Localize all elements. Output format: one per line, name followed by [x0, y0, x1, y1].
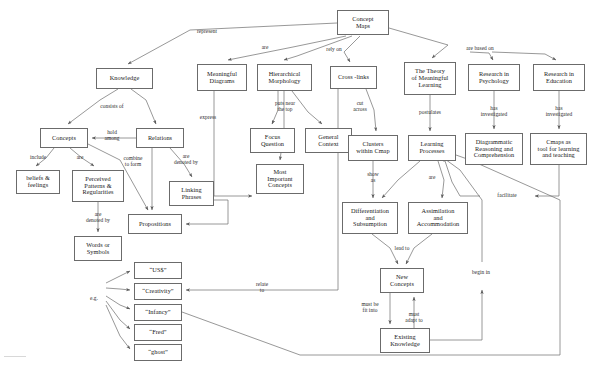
edge-label-puts_near_top: puts near the top	[275, 101, 295, 113]
edge-label-are_based_on: are based on	[466, 46, 493, 52]
edge-label-consists_of: consists of	[100, 104, 123, 110]
edge-label-rely_on: rely on	[326, 47, 341, 53]
edge-label-has_investigated_psy: has investigated	[481, 106, 508, 118]
edge-label-express: express	[200, 115, 216, 121]
edge-label-must_be_fit_into: must be fit into	[361, 302, 378, 314]
edge-label-cut_across: cut across	[353, 101, 367, 113]
edge-label-are_denoted_by_rel: are denoted by	[174, 154, 198, 166]
edge-label-show_as: show as	[367, 172, 379, 184]
edge-label-are_top: are	[262, 45, 269, 51]
edge-label-represent: represent	[197, 29, 217, 35]
edge-label-lead_to: lead to	[395, 246, 410, 252]
edge-label-combine_to_form: combine to form	[124, 156, 143, 168]
edge-label-include: include	[30, 155, 46, 161]
footer-divider	[4, 356, 26, 357]
edge-label-are_denoted_by_pp: are denoted by	[86, 212, 110, 224]
edge-label-hold_among: hold among	[105, 130, 120, 142]
edge-label-must_adapt_to: must adapt to	[405, 312, 423, 324]
edge-label-eg: e.g.	[90, 296, 98, 302]
edge-label-facilitate: facilitate	[497, 193, 516, 199]
edge-label-relate_to: relate to	[256, 282, 268, 294]
edge-label-has_investigated_edu: has investigated	[546, 106, 573, 118]
edge-label-postulates: postulates	[419, 110, 441, 116]
edge-label-are_learning: are	[429, 175, 436, 181]
edge-label-begin_in: begin in	[472, 270, 490, 276]
edge-label-are_concepts: are	[77, 155, 84, 161]
concept-map-canvas: Concept MapsKnowledgeMeaningful Diagrams…	[0, 0, 592, 368]
edge-label-layer: representarerely onare based onconsists …	[0, 0, 592, 368]
